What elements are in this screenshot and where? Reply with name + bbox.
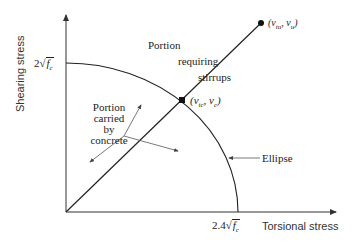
- ultimate-point-label: (vtu, vu): [268, 17, 298, 33]
- x-axis-label: Torsional stress: [262, 220, 338, 232]
- y-tick-label: 2√fc: [34, 57, 54, 74]
- y-axis-label: Shearing stress: [14, 36, 26, 112]
- stirrups-label-line1: Portion: [148, 39, 180, 51]
- x-tick-sub: c: [236, 226, 239, 234]
- y-tick-sub: c: [50, 64, 53, 72]
- x-tick-label: 2.4√fc: [212, 219, 240, 236]
- concrete-capacity-point: [179, 97, 185, 103]
- stirrups-label-line3: stirrups: [198, 71, 231, 83]
- stirrups-label-line2: requiring: [178, 55, 218, 67]
- concrete-region-label: Portion carried by concrete: [84, 102, 134, 146]
- diagram-canvas: [0, 0, 356, 241]
- x-tick-coef: 2.4: [212, 219, 226, 231]
- ellipse-label: Ellipse: [262, 152, 293, 164]
- ultimate-point: [258, 20, 264, 26]
- concrete-point-label: (vtc, vc): [190, 94, 221, 111]
